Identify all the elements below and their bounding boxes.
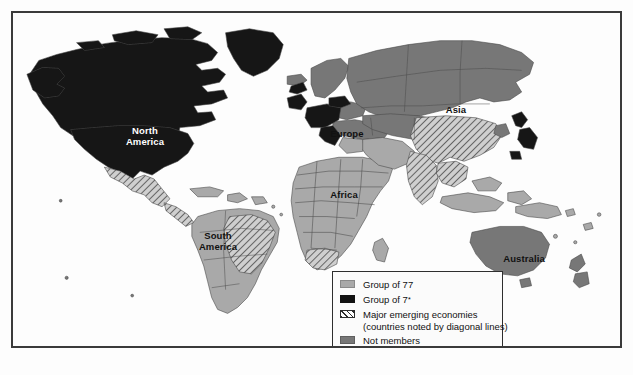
legend-label-group-of-7: Group of 7 [363,294,408,305]
legend-swatch-group-of-7 [340,295,355,303]
legend-item-group-of-77: Group of 77 [340,277,496,291]
world-map: North America South America Europe Afric… [13,13,620,346]
legend-item-major-emerging-economies: Major emerging economies [340,307,496,321]
legend-label-group-of-77: Group of 77 [363,279,413,290]
legend-footnote-marker: * [408,296,411,303]
legend-swatch-group-of-77 [340,280,355,288]
legend-label-major-emerging-economies: Major emerging economies [363,309,478,320]
legend-swatch-not-members [340,336,355,344]
world-map-svg [13,13,620,346]
legend-label-not-members: Not members [363,335,420,346]
legend-sub-note: (countries noted by diagonal lines) [363,321,496,332]
legend-item-group-of-7: Group of 7 * [340,292,496,306]
map-legend: Group of 77 Group of 7 * Major emerging … [332,271,503,347]
legend-swatch-major-emerging-economies [340,310,355,318]
legend-item-not-members: Not members [340,333,496,347]
screenshot-root: North America South America Europe Afric… [0,0,633,375]
map-frame: North America South America Europe Afric… [11,11,622,348]
